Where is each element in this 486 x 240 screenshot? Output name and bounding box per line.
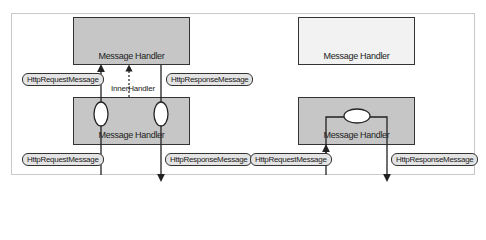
right-handler-ellipse	[344, 109, 370, 123]
right-flow-line	[326, 117, 344, 175]
bottom-request-message-pill: HttpRequestMessage	[22, 153, 104, 166]
top-request-message-pill: HttpRequestMessage	[22, 73, 104, 86]
inner-handler-label: InnerHandler	[111, 84, 155, 93]
top-response-message-pill: HttpResponseMessage	[166, 73, 253, 86]
right-response-message-pill: HttpResponseMessage	[391, 153, 478, 166]
bottom-response-message-pill: HttpResponseMessage	[165, 153, 252, 166]
right-request-message-pill: HttpRequestMessage	[250, 153, 332, 166]
left-request-ellipse	[94, 102, 108, 126]
left-response-ellipse	[154, 102, 168, 126]
